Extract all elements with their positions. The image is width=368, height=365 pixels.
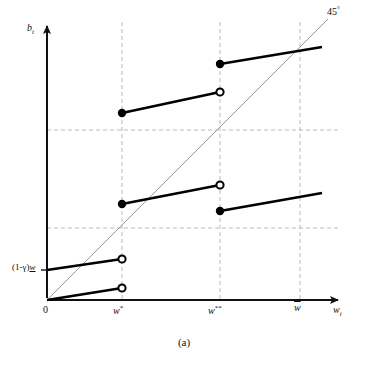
filled-dot-upper-middle bbox=[118, 109, 126, 117]
45-degree-label: 45° bbox=[327, 6, 340, 17]
open-endpoint-markers bbox=[118, 88, 223, 291]
y-intercept-label: (1-γ)w bbox=[12, 263, 35, 272]
x-axis-label: wt bbox=[333, 305, 342, 318]
y-intercept-prefix: (1-γ) bbox=[12, 262, 29, 272]
open-dot-lower-left bbox=[118, 284, 125, 291]
function-branches bbox=[47, 47, 322, 300]
y-axis-label: bt bbox=[27, 23, 34, 36]
gridlines-vertical bbox=[122, 22, 300, 300]
open-dot-upper-left bbox=[118, 255, 125, 262]
x-axis-label-base: w bbox=[333, 304, 340, 315]
x-tick-label-w-star-star: w** bbox=[208, 305, 222, 316]
figure-panel-a: bt wt 0 w* w** w 45° (1-γ)w (a) bbox=[0, 0, 368, 365]
branch-lower-right bbox=[220, 193, 322, 211]
plot-canvas bbox=[0, 0, 368, 365]
45-degree-line bbox=[47, 19, 328, 300]
filled-dot-lower-right bbox=[216, 207, 224, 215]
open-dot-lower-middle bbox=[216, 181, 223, 188]
x-tick-label-w-star: w* bbox=[113, 305, 123, 316]
filled-endpoint-markers bbox=[118, 60, 224, 215]
open-dot-upper-middle bbox=[216, 88, 223, 95]
branch-lower-middle bbox=[122, 185, 220, 204]
y-intercept-variable: w bbox=[29, 262, 35, 272]
branch-upper-left bbox=[47, 259, 122, 270]
branch-upper-middle bbox=[122, 92, 220, 113]
filled-dot-lower-middle bbox=[118, 200, 126, 208]
y-axis-label-subscript: t bbox=[32, 28, 34, 36]
axes bbox=[47, 26, 338, 300]
origin-label: 0 bbox=[43, 305, 48, 315]
x-tick-w-star-star-superscript: ** bbox=[215, 304, 222, 312]
45-degree-label-value: 45 bbox=[327, 6, 337, 17]
degree-symbol-icon: ° bbox=[337, 5, 340, 13]
figure-caption: (a) bbox=[0, 336, 368, 348]
filled-dot-upper-right bbox=[216, 60, 224, 68]
x-tick-w-star-superscript: * bbox=[120, 304, 124, 312]
branch-lower-left bbox=[47, 288, 122, 300]
x-tick-w-star-base: w bbox=[113, 305, 120, 316]
x-tick-label-w-bar: w bbox=[294, 303, 301, 313]
x-axis-label-subscript: t bbox=[340, 310, 342, 318]
gridlines-horizontal bbox=[47, 130, 340, 228]
x-tick-w-bar-base: w bbox=[294, 302, 301, 313]
branch-upper-right bbox=[220, 47, 322, 64]
x-tick-w-star-star-base: w bbox=[208, 305, 215, 316]
